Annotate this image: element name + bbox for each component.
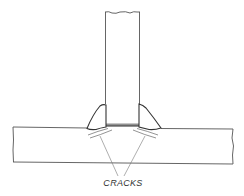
crack-lines (88, 129, 158, 139)
right-fillet-weld (139, 104, 161, 130)
vertical-plate (105, 12, 140, 104)
root-gap (106, 124, 139, 127)
base-plate (13, 127, 234, 164)
cracks-leader-lines (100, 136, 145, 176)
left-fillet-weld (87, 105, 106, 130)
t-joint-weld-diagram (0, 0, 244, 196)
cracks-label: CRACKS (103, 178, 143, 188)
